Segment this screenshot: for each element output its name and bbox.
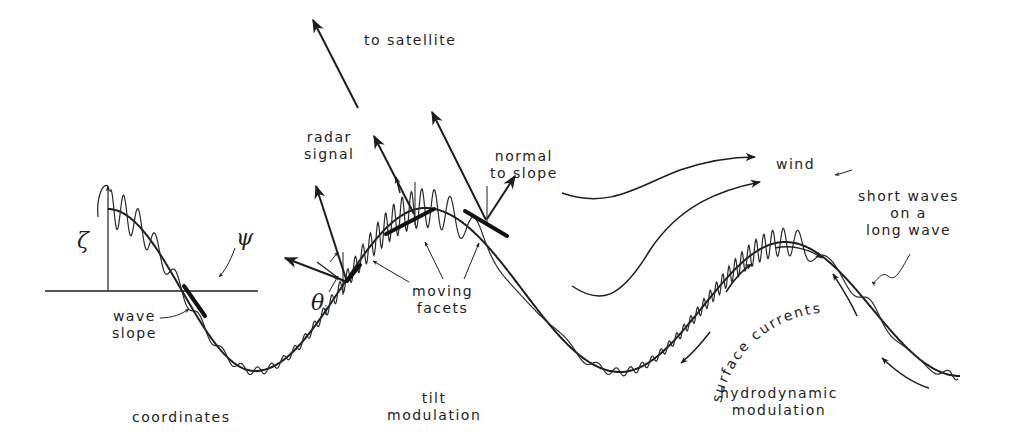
radar-signal-arrow-1 [316,186,347,282]
to-satellite-label: to satellite [364,32,456,49]
long-wave-pointer [872,254,910,282]
crest-hook [98,185,108,217]
radar-signal-label: radar signal [304,129,354,163]
psi-pointer [219,248,235,277]
tilt-modulation-label: tilt modulation [387,390,481,424]
theta-subscript: i [324,304,327,318]
normal-arrow-left [285,258,345,281]
moving-facets-pointer-1 [373,261,409,282]
svg-text:surface currents: surface currents [713,300,823,404]
wave-slope-pointer [160,309,189,318]
psi-symbol: ψ [236,225,253,250]
surface-currents-label: surface currents [700,268,860,388]
wave-slope-label: wave slope [112,308,157,342]
theta-pointer-2 [329,276,338,292]
theta-symbol: θ [311,290,324,315]
normal-to-slope-label: normal to slope [490,148,558,182]
theta-pointer-1 [330,252,338,262]
radar-signal-arrow-2 [374,136,414,214]
moving-facets-label: moving facets [412,283,473,317]
radar-signal-arrow-3 [432,112,486,220]
zeta-symbol: ζ [77,228,89,253]
normal-arrow-right [487,176,515,219]
wind-label: wind [776,156,815,173]
short-waves-pointer [835,170,852,175]
surface-currents-curved-text: surface currents [713,285,873,405]
wind-arrow-1 [562,157,755,199]
moving-facets-pointer-3 [464,243,479,279]
to-satellite-arrow [313,20,358,108]
moving-facets-pointer-2 [425,242,443,279]
coordinates-label: coordinates [132,409,230,426]
surface-current-arrow-5 [882,358,929,388]
short-waves-label: short waves on a long wave [858,188,959,239]
theta-i-symbol: θi [311,290,328,318]
